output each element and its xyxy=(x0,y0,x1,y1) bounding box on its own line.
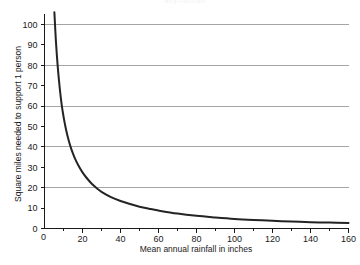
axes-group xyxy=(45,14,349,229)
y-tick-label: 60 xyxy=(27,101,37,111)
data-curve-group xyxy=(54,12,348,223)
y-axis-title: Square miles needed to support 1 person xyxy=(13,46,23,202)
x-tick-label: 80 xyxy=(191,234,201,244)
gridlines-group xyxy=(45,25,349,188)
y-tick-group xyxy=(41,25,45,229)
x-tick-label: 20 xyxy=(77,234,87,244)
x-tick-label: 100 xyxy=(227,234,242,244)
x-tick-label: 120 xyxy=(265,234,280,244)
y-tick-label: 30 xyxy=(27,163,37,173)
y-tick-label: 40 xyxy=(27,142,37,152)
x-tick-label: 140 xyxy=(303,234,318,244)
y-tick-label: 0 xyxy=(32,224,37,234)
y-tick-label: 80 xyxy=(27,61,37,71)
y-tick-label: 100 xyxy=(22,20,37,30)
cropped-header-text: ally-rainfall xyxy=(130,0,240,5)
x-tick-label: 40 xyxy=(115,234,125,244)
y-tick-label: 70 xyxy=(27,81,37,91)
y-tick-label-group: 0102030405060708090100 xyxy=(22,20,37,234)
y-tick-label: 90 xyxy=(27,40,37,50)
x-tick-label: 160 xyxy=(341,234,356,244)
x-tick-group xyxy=(64,229,349,233)
data-curve xyxy=(54,12,348,223)
y-tick-label: 20 xyxy=(27,183,37,193)
x-tick-label-group: 020406080100120140160 xyxy=(41,232,356,244)
x-tick-label: 60 xyxy=(153,234,163,244)
chart-svg: 0102030405060708090100 02040608010012014… xyxy=(0,0,360,265)
x-tick-label: 0 xyxy=(41,232,46,242)
y-tick-label: 10 xyxy=(27,203,37,213)
y-tick-label: 50 xyxy=(27,122,37,132)
chart-figure: ally-rainfall 0102030405060708090100 020… xyxy=(0,0,360,265)
x-axis-title: Mean annual rainfall in inches xyxy=(140,244,252,254)
